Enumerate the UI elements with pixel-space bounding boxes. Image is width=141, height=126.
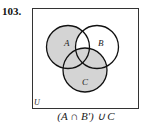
label-a: A [63,38,70,48]
set-expression-caption: (A ∩ B′) ∪ C [32,110,140,123]
label-c: C [82,77,89,87]
venn-diagram: A B C U [0,0,141,126]
label-b: B [98,38,104,48]
